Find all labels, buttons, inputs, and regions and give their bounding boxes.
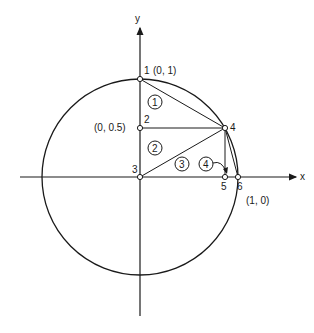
svg-text:2: 2 xyxy=(152,143,158,154)
region-2-marker: 2 xyxy=(148,141,162,155)
point-3-label: 3 xyxy=(132,164,138,175)
unit-circle-diagram: x y 1 (0, 1) 2 (0, 0.5) 3 4 5 6 (1, 0) 1… xyxy=(0,0,314,333)
point-6-coord: (1, 0) xyxy=(246,195,269,206)
point-5 xyxy=(222,174,227,179)
point-4-label: 4 xyxy=(230,122,236,133)
point-1 xyxy=(137,76,142,81)
point-3 xyxy=(137,174,142,179)
region-1-marker: 1 xyxy=(148,95,162,109)
point-2-label: 2 xyxy=(144,114,150,125)
region-3-marker: 3 xyxy=(175,157,189,171)
y-axis-label: y xyxy=(135,13,140,24)
x-axis-label: x xyxy=(300,171,305,182)
point-2 xyxy=(137,125,142,130)
point-1-coord: (0, 1) xyxy=(153,65,176,76)
point-2-coord: (0, 0.5) xyxy=(94,122,126,133)
svg-text:3: 3 xyxy=(179,159,185,170)
region-4-pointer xyxy=(213,162,226,172)
svg-text:1: 1 xyxy=(152,97,158,108)
region-4-marker: 4 xyxy=(199,157,213,171)
point-5-label: 5 xyxy=(221,181,227,192)
point-1-label: 1 xyxy=(144,65,150,76)
svg-text:4: 4 xyxy=(203,159,209,170)
point-6-label: 6 xyxy=(237,181,243,192)
point-6 xyxy=(235,174,240,179)
point-4 xyxy=(222,125,227,130)
